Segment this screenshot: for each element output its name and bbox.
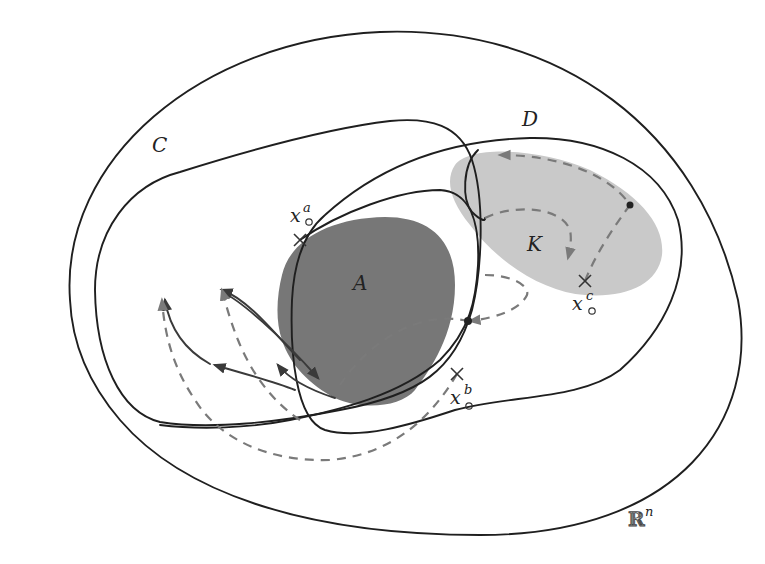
label-xa: x a (290, 200, 312, 226)
svg-text:ℝ: ℝ (628, 507, 645, 531)
trajectory-arrow-2 (165, 300, 210, 364)
point-xa-marker (294, 234, 306, 246)
svg-text:x: x (572, 292, 583, 314)
label-C: C (152, 133, 167, 157)
equilibrium-dot-2 (464, 317, 472, 325)
set-K-region (450, 152, 662, 296)
svg-text:x: x (450, 386, 461, 408)
label-K: K (526, 232, 543, 256)
dashed-trajectory-4 (470, 275, 527, 321)
point-xb-marker (451, 368, 463, 380)
label-xb: x b (450, 382, 472, 409)
svg-text:a: a (303, 200, 311, 215)
svg-text:n: n (645, 504, 653, 519)
label-space-Rn: ℝ n (628, 504, 653, 531)
equilibrium-dot-1 (627, 202, 634, 209)
diagram-canvas: C D A K x a x b x c ℝ n (0, 0, 765, 564)
label-A: A (351, 271, 367, 295)
svg-text:b: b (464, 382, 472, 397)
trajectory-arrow-1 (215, 365, 295, 390)
svg-text:c: c (586, 288, 594, 303)
label-D: D (521, 107, 538, 131)
svg-text:x: x (290, 204, 301, 226)
